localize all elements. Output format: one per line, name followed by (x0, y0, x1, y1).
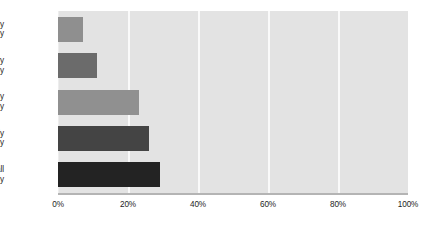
y-axis-label-line: likely (0, 102, 4, 112)
gridline-40 (198, 11, 200, 193)
y-axis-label-line: Very (0, 56, 4, 66)
bar-2 (58, 53, 97, 78)
x-axis-tick-100: 100% (398, 200, 419, 210)
y-axis-label-line: likely (0, 175, 4, 185)
x-axis-line (58, 193, 408, 195)
bar-fill (58, 126, 149, 151)
y-axis-label-2: Verylikely (0, 56, 4, 75)
x-axis-tick-0: 0% (52, 200, 64, 210)
bar-fill (58, 53, 97, 78)
y-axis-label-1: Extremelylikely (0, 20, 4, 39)
x-axis-tick-20: 20% (120, 200, 136, 210)
gridline-80 (338, 11, 340, 193)
bar-5 (58, 162, 160, 187)
bar-chart: ExtremelylikelyVerylikelyModeratelylikel… (0, 0, 426, 228)
bar-4 (58, 126, 149, 151)
bar-fill (58, 17, 83, 42)
y-axis-label-line: Not at all (0, 165, 4, 175)
y-axis-label-4: Slightlylikely (0, 129, 4, 148)
y-axis-label-line: Extremely (0, 20, 4, 30)
x-axis-tick-80: 80% (330, 200, 346, 210)
bar-fill (58, 162, 160, 187)
y-axis-label-line: Moderately (0, 92, 4, 102)
x-axis-tick-60: 60% (260, 200, 276, 210)
gridline-60 (268, 11, 270, 193)
bar-3 (58, 90, 139, 115)
y-axis-label-line: Slightly (0, 129, 4, 139)
bar-1 (58, 17, 83, 42)
bar-fill (58, 90, 139, 115)
plot-area (58, 11, 408, 193)
x-axis-tick-40: 40% (190, 200, 206, 210)
y-axis-label-3: Moderatelylikely (0, 92, 4, 111)
y-axis-label-line: likely (0, 29, 4, 39)
y-axis-label-line: likely (0, 138, 4, 148)
y-axis-label-line: likely (0, 66, 4, 76)
y-axis-label-5: Not at alllikely (0, 165, 4, 184)
